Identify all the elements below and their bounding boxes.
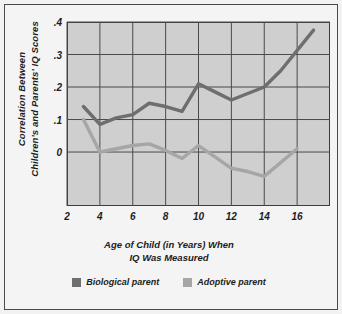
- y-axis-label-line2: Children's and Parents' IQ Scores: [29, 21, 40, 177]
- legend-label: Adoptive parent: [197, 277, 266, 287]
- x-tick-label: 12: [226, 211, 237, 222]
- y-axis-label: Correlation Between Children's and Paren…: [15, 9, 41, 189]
- y-tick-label: 0: [56, 147, 62, 158]
- chart-legend: Biological parentAdoptive parent: [24, 277, 314, 287]
- y-tick-label: .4: [54, 17, 62, 28]
- y-tick-label: .1: [54, 114, 62, 125]
- chart-figure: Correlation Between Children's and Paren…: [0, 0, 342, 314]
- y-tick-label: .3: [54, 49, 62, 60]
- y-tick-label: .2: [54, 82, 62, 93]
- x-axis-label-line1: Age of Child (in Years) When: [104, 239, 234, 250]
- x-tick-label: 14: [259, 211, 270, 222]
- x-tick-label: 10: [193, 211, 204, 222]
- legend-swatch-icon: [72, 278, 81, 287]
- legend-item: Biological parent: [72, 277, 159, 287]
- legend-swatch-icon: [183, 278, 192, 287]
- x-tick-label: 4: [97, 211, 103, 222]
- x-axis-label: Age of Child (in Years) When IQ Was Meas…: [24, 238, 314, 264]
- data-series-layer: [67, 22, 330, 206]
- plot-wrap: 0.1.2.3.4 246810121416: [67, 22, 330, 206]
- legend-item: Adoptive parent: [183, 277, 266, 287]
- legend-label: Biological parent: [86, 277, 159, 287]
- y-axis-label-line1: Correlation Between: [16, 52, 27, 146]
- x-axis-label-line2: IQ Was Measured: [129, 252, 208, 263]
- x-tick-label: 6: [130, 211, 136, 222]
- x-tick-label: 8: [163, 211, 169, 222]
- x-tick-label: 2: [64, 211, 70, 222]
- x-tick-label: 16: [292, 211, 303, 222]
